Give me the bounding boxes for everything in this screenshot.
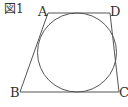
vertex-label-c: C	[119, 86, 128, 99]
vertex-label-d: D	[110, 5, 120, 18]
inscribed-circle	[38, 13, 117, 92]
quadrilateral-abcd	[20, 13, 119, 92]
figure-caption: 図1	[4, 3, 24, 16]
vertex-label-b: B	[10, 86, 20, 99]
vertex-label-a: A	[38, 5, 47, 18]
